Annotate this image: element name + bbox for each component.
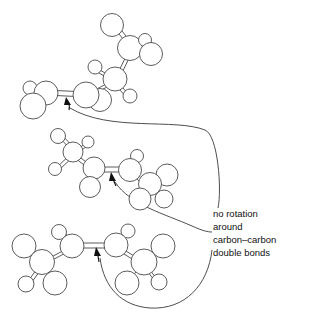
atom-H	[49, 163, 62, 176]
atom-C	[30, 250, 55, 275]
atom-C	[83, 157, 105, 179]
atom-H	[82, 136, 94, 148]
molecule-diagram: no rotation around carbon–carbon double …	[0, 0, 309, 318]
atom-H	[151, 274, 167, 290]
atom-H	[129, 188, 151, 210]
atom-H	[115, 271, 139, 295]
top-molecule	[20, 14, 163, 120]
middle-molecule	[49, 129, 179, 211]
atom-C	[119, 159, 142, 182]
atom-H	[155, 190, 173, 208]
atom-H	[51, 129, 66, 144]
atom-C	[63, 142, 83, 162]
atom-H	[20, 93, 46, 119]
atom-H	[88, 60, 102, 74]
atom-H	[43, 271, 67, 295]
atom-H	[140, 43, 163, 66]
atom-H	[101, 14, 124, 37]
bottom-molecule-atoms	[12, 224, 175, 295]
caption-line-1: no rotation	[213, 208, 258, 219]
bottom-molecule	[12, 224, 175, 295]
atom-C	[131, 249, 157, 275]
atom-H	[123, 89, 137, 103]
caption-line-4: double bonds	[213, 247, 270, 258]
arrow-head	[64, 97, 71, 105]
top-molecule-atoms	[20, 14, 163, 120]
caption-line-2: around	[213, 221, 243, 232]
arrow-to-double-bond-middle	[109, 172, 116, 186]
atom-C	[60, 234, 84, 258]
arrow-head	[109, 172, 116, 181]
caption: no rotation around carbon–carbon double …	[213, 208, 276, 258]
caption-line-3: carbon–carbon	[213, 234, 276, 245]
atom-C	[73, 82, 99, 108]
arrow-to-double-bond-top	[64, 97, 71, 110]
atom-H	[18, 276, 34, 292]
atom-C	[104, 233, 128, 257]
middle-molecule-atoms	[49, 129, 179, 211]
atom-H	[80, 177, 101, 198]
atom-C	[103, 67, 127, 91]
